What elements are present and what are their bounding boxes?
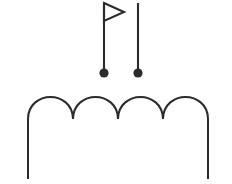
plain-pin-base-dot-icon bbox=[133, 68, 142, 77]
flag-base-dot-icon bbox=[99, 68, 108, 77]
background-rect bbox=[0, 0, 232, 184]
line-drawing bbox=[0, 0, 232, 184]
drawing-canvas bbox=[0, 0, 232, 184]
